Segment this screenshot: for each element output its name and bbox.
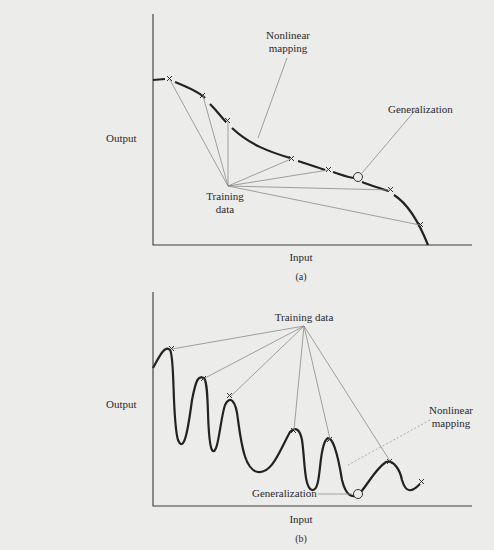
- figure-b-training-leaders: [172, 326, 390, 461]
- figure-a: Nonlinear mapping Generalization Output …: [106, 14, 472, 283]
- figure-a-nonlinear-label-2: mapping: [269, 42, 308, 54]
- figure-a-training-leaders: [170, 80, 420, 225]
- figure-a-caption: (a): [295, 271, 306, 283]
- figure-a-generalization-leader: [362, 107, 418, 173]
- figure-b-training-label: Training data: [275, 311, 334, 323]
- figure-b: Training data Output Nonlinear mapping G…: [106, 292, 473, 545]
- figure-b-caption: (b): [295, 533, 307, 545]
- figure-a-input-label: Input: [289, 251, 312, 263]
- figure-a-generalization-point: [354, 173, 363, 182]
- figure-b-axes: [153, 292, 472, 506]
- figure-canvas: Nonlinear mapping Generalization Output …: [0, 0, 494, 550]
- figure-b-mapping-leader: [348, 420, 430, 465]
- figure-a-training-points: [167, 76, 423, 227]
- figure-b-generalization-point: [354, 490, 363, 499]
- figure-b-output-label: Output: [106, 398, 137, 410]
- figure-a-mapping-leader: [258, 58, 287, 138]
- figure-b-nonlinear-label-2: mapping: [432, 417, 471, 429]
- figure-a-generalization-label: Generalization: [388, 103, 453, 115]
- figure-a-nonlinear-label-1: Nonlinear: [266, 29, 310, 41]
- figure-a-mapping-curve: [153, 79, 428, 245]
- figure-a-axes: [153, 14, 472, 245]
- figure-a-training-label-1: Training: [206, 190, 244, 202]
- figure-b-nonlinear-label-1: Nonlinear: [429, 404, 473, 416]
- figure-a-training-label-2: data: [216, 203, 234, 215]
- figure-b-input-label: Input: [289, 513, 312, 525]
- figure-b-mapping-curve: [153, 349, 420, 496]
- figure-b-generalization-label: Generalization: [252, 487, 317, 499]
- figure-a-output-label: Output: [106, 132, 137, 144]
